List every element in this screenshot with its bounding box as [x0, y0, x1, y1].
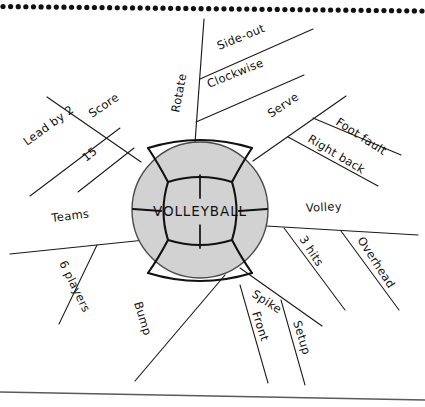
label-serve: Serve: [265, 90, 301, 121]
branch-teams[interactable]: Teams 6 players: [10, 206, 145, 324]
binding-dot: [115, 5, 120, 10]
label-teams: Teams: [50, 206, 90, 225]
binding-dot: [320, 7, 325, 12]
binding-dot: [0, 4, 5, 9]
binding-dot: [336, 8, 341, 13]
binding-dot: [107, 5, 112, 10]
binding-dot: [16, 4, 21, 9]
binding-dot: [8, 4, 13, 9]
label-6-players: 6 players: [56, 258, 93, 314]
binding-dot: [397, 8, 402, 13]
binding-dot: [252, 7, 257, 12]
branch-score[interactable]: Score Lead by 2 15: [21, 90, 141, 196]
binding-dot: [298, 7, 303, 12]
binding-dot: [160, 6, 165, 11]
notebook-page: Score Lead by 2 15 Rotate Side-out Clock…: [0, 0, 425, 407]
label-bump: Bump: [131, 300, 155, 337]
binding-dot: [313, 7, 318, 12]
binding-dot: [275, 7, 280, 12]
binding-dot: [92, 5, 97, 10]
binding-dot: [305, 7, 310, 12]
binding-dot: [61, 5, 66, 10]
binding-dot: [31, 4, 36, 9]
binding-dot: [229, 6, 234, 11]
center-label-volleyball: VOLLEYBALL: [153, 203, 247, 219]
binding-dot: [183, 6, 188, 11]
branch-spike[interactable]: Spike Front Setup: [240, 268, 322, 385]
binding-dot: [343, 8, 348, 13]
binding-dot: [138, 5, 143, 10]
binding-dot: [168, 6, 173, 11]
binding-dot: [404, 8, 409, 13]
binding-dot: [23, 4, 28, 9]
binding-dot: [130, 5, 135, 10]
binding-dot: [46, 4, 51, 9]
binding-dot: [244, 7, 249, 12]
binding-dot: [84, 5, 89, 10]
binding-dot: [419, 8, 424, 13]
branch-serve[interactable]: Serve Foot fault Right back: [253, 90, 401, 186]
binding-dots-row: [0, 4, 424, 14]
label-rotate: Rotate: [168, 72, 189, 113]
binding-dot: [366, 8, 371, 13]
binding-dot: [412, 8, 417, 13]
binding-dot: [290, 7, 295, 12]
binding-dot: [77, 5, 82, 10]
binding-dot: [389, 8, 394, 13]
binding-dot: [145, 5, 150, 10]
label-volley: Volley: [305, 199, 342, 215]
label-front: Front: [249, 310, 272, 344]
binding-dot: [267, 7, 272, 12]
page-bottom-edge: [0, 392, 425, 400]
branch-bump[interactable]: Bump: [131, 275, 225, 381]
binding-dot: [122, 5, 127, 10]
label-setup: Setup: [290, 319, 314, 357]
binding-dot: [214, 6, 219, 11]
mindmap-canvas: Score Lead by 2 15 Rotate Side-out Clock…: [0, 0, 425, 407]
label-side-out: Side-out: [215, 21, 267, 53]
binding-dot: [358, 8, 363, 13]
binding-dot: [198, 6, 203, 11]
branch-line-teams: [10, 240, 145, 254]
binding-dot: [351, 8, 356, 13]
label-lead-by-2: Lead by 2: [21, 102, 77, 148]
label-clockwise: Clockwise: [205, 55, 266, 90]
label-score: Score: [86, 90, 122, 120]
binding-dot: [374, 8, 379, 13]
binding-dot: [221, 6, 226, 11]
subbranch-line-lead-by-2: [30, 128, 120, 196]
label-15: 15: [79, 144, 100, 164]
binding-dot: [69, 5, 74, 10]
binding-dot: [259, 7, 264, 12]
binding-dot: [176, 6, 181, 11]
branch-line-rotate: [195, 19, 204, 143]
binding-dot: [237, 6, 242, 11]
binding-dot: [381, 8, 386, 13]
binding-dot: [54, 4, 59, 9]
branch-rotate[interactable]: Rotate Side-out Clockwise: [168, 19, 313, 143]
binding-dot: [99, 5, 104, 10]
center-node-volleyball[interactable]: VOLLEYBALL: [132, 140, 268, 281]
subbranch-line-3-hits: [284, 228, 345, 310]
binding-dot: [191, 6, 196, 11]
binding-dot: [328, 7, 333, 12]
binding-dot: [38, 4, 43, 9]
binding-dot: [206, 6, 211, 11]
binding-dot: [153, 6, 158, 11]
branch-volley[interactable]: Volley 3 hits Overhead: [266, 199, 418, 310]
binding-dot: [282, 7, 287, 12]
label-overhead: Overhead: [354, 234, 398, 291]
